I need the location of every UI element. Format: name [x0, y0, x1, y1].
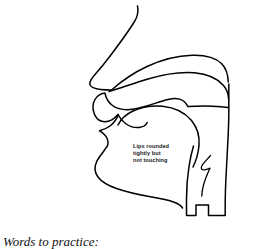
- lower-lip-line: [100, 115, 119, 148]
- lips-annotation-line-2: tightly but: [133, 150, 189, 157]
- epiglottis-line: [201, 156, 210, 197]
- hard-palate-line: [109, 73, 229, 99]
- lips-annotation: Lips rounded tightly but not touching: [133, 143, 189, 165]
- words-to-practice-caption: Words to practice:: [3, 234, 99, 249]
- lips-annotation-line-3: not touching: [133, 157, 189, 164]
- pharynx-back-wall-line: [187, 84, 229, 216]
- lips-annotation-line-1: Lips rounded: [133, 143, 189, 150]
- nose-profile-line: [90, 6, 138, 90]
